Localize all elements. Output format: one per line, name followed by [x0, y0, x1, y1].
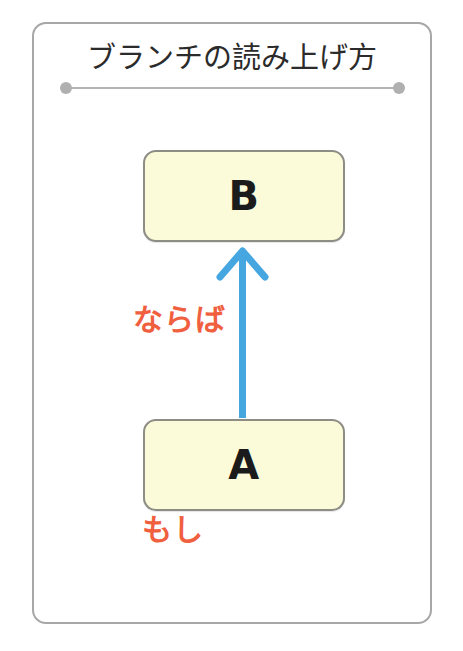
- title-divider: [60, 82, 405, 95]
- diagram-canvas: ブランチの読み上げ方 B ならば A もし: [0, 0, 463, 651]
- divider-line: [66, 87, 399, 89]
- divider-dot-left-icon: [60, 82, 72, 94]
- node-box-b[interactable]: B: [143, 150, 345, 242]
- page-title: ブランチの読み上げ方: [52, 38, 412, 78]
- node-box-a[interactable]: A: [143, 419, 345, 511]
- divider-dot-right-icon: [393, 82, 405, 94]
- node-label-a: A: [228, 445, 259, 485]
- annotation-naraba: ならば: [133, 305, 226, 335]
- annotation-moshi: もし: [142, 515, 204, 545]
- node-label-b: B: [229, 176, 260, 216]
